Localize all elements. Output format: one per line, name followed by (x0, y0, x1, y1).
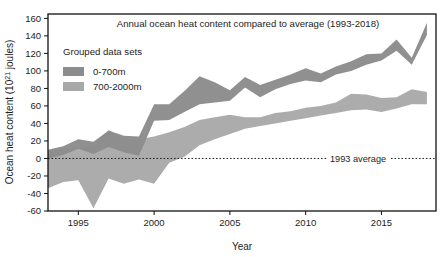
y-axis-title: Ocean heat content (1021 joules) (4, 40, 15, 185)
x-tick-label: 2005 (219, 217, 240, 228)
y-tick-label: 140 (25, 30, 41, 41)
y-tick-label: 40 (30, 118, 41, 129)
legend-title: Grouped data sets (63, 46, 142, 57)
legend-swatch-700-2000m (63, 82, 84, 91)
y-tick-label: 0 (36, 153, 41, 164)
y-tick-label: -40 (27, 188, 41, 199)
y-tick-label: 20 (30, 135, 41, 146)
x-tick-label: 1995 (68, 217, 89, 228)
y-tick-label: 100 (25, 65, 41, 76)
y-tick-label: 80 (30, 83, 41, 94)
chart-title: Annual ocean heat content compared to av… (117, 18, 379, 29)
y-tick-label: -20 (27, 170, 41, 181)
y-tick-label: 60 (30, 100, 41, 111)
legend-entry-700-2000m: 700-2000m (63, 81, 142, 92)
x-tick-label: 2000 (144, 217, 165, 228)
cropped-edge-artifact (5, 249, 125, 256)
legend-swatch-0-700m (63, 67, 84, 76)
annotation-1993-average: 1993 average (327, 153, 389, 165)
ocean-heat-content-chart: 1993 average -60-40-20020406080100120140… (0, 0, 445, 257)
chart-canvas: 1993 average -60-40-20020406080100120140… (0, 0, 445, 257)
legend-label-700-2000m: 700-2000m (93, 81, 142, 92)
legend-entry-0-700m: 0-700m (63, 66, 126, 77)
y-axis: -60-40-20020406080100120140160 (25, 13, 48, 217)
x-tick-label: 2010 (295, 217, 316, 228)
legend-label-0-700m: 0-700m (93, 66, 126, 77)
y-tick-label: -60 (27, 205, 41, 216)
x-axis: 19952000200520102015 (68, 211, 392, 228)
x-tick-label: 2015 (371, 217, 392, 228)
annotation-label: 1993 average (330, 154, 386, 164)
y-tick-label: 120 (25, 48, 41, 59)
y-tick-label: 160 (25, 13, 41, 24)
x-axis-title: Year (232, 241, 253, 252)
